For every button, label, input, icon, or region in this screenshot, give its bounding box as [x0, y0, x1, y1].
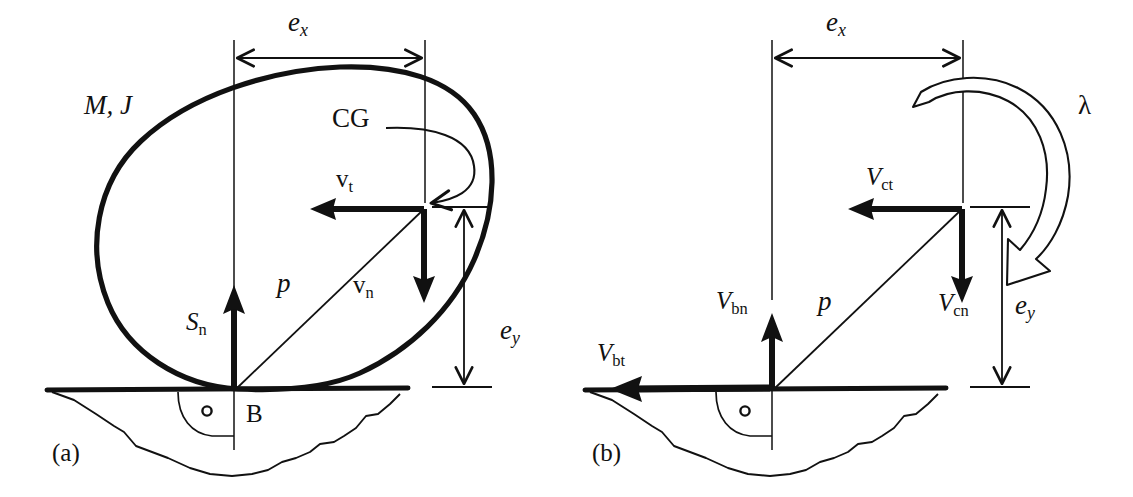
- velocity-vbt-arrowhead: [610, 376, 642, 402]
- cg-leader-line: [386, 128, 474, 203]
- panel-b: [585, 40, 1070, 476]
- rotation-lambda-arrow: [913, 78, 1070, 285]
- dimension-ex-label-a: ex: [288, 9, 308, 36]
- velocity-vct-label: Vct: [866, 164, 893, 189]
- cg-label: CG: [332, 105, 370, 132]
- radius-p-label-b: p: [818, 288, 832, 315]
- velocity-vbt-arrow: [625, 388, 770, 389]
- radius-p-line-panelb: [774, 210, 961, 389]
- angle-marker-circle-panelb: [740, 406, 749, 415]
- contact-point-label-b: B: [246, 401, 263, 426]
- velocity-vcn-label: Vcn: [938, 290, 969, 315]
- figure-root: ex M, J CG vt vn p Sn ey B (a) ex λ Vct …: [0, 0, 1133, 497]
- velocity-vbn-label: Vbn: [716, 288, 748, 313]
- dimension-ex-label-b: ex: [826, 9, 846, 36]
- panel-caption-a: (a): [52, 440, 80, 465]
- dimension-ey-label-a: ey: [500, 317, 520, 344]
- radius-p-label-a: p: [277, 270, 291, 297]
- velocity-vn-arrowhead: [413, 276, 435, 303]
- velocity-vct-arrowhead: [848, 198, 874, 220]
- radius-p-line: [236, 210, 423, 389]
- body-outline: [97, 67, 492, 390]
- impulse-sn-label: Sn: [186, 309, 207, 334]
- rotation-lambda-label: λ: [1078, 92, 1091, 119]
- terrain-profile-panelb: [590, 392, 938, 476]
- angle-marker-circle: [202, 406, 211, 415]
- body-mass-inertia-label: M, J: [84, 92, 132, 119]
- dimension-ey-label-b: ey: [1015, 292, 1035, 319]
- terrain-profile: [52, 392, 400, 476]
- velocity-vt-label: vt: [336, 166, 353, 191]
- velocity-vt-arrowhead: [310, 198, 336, 220]
- panel-caption-b: (b): [592, 440, 621, 465]
- angle-arc: [178, 392, 234, 436]
- velocity-vn-label: vn: [353, 272, 374, 297]
- diagram-canvas: [0, 0, 1133, 497]
- angle-arc-panelb: [716, 392, 772, 436]
- velocity-vbt-label: Vbt: [597, 340, 625, 365]
- ground-line: [47, 388, 408, 390]
